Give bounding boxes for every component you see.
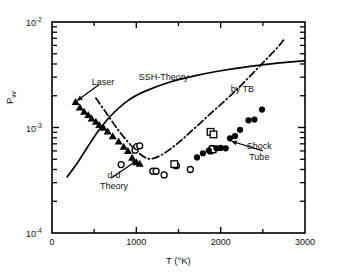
xtick-label-0: 0 xyxy=(50,237,55,247)
xtick-label-3000: 3000 xyxy=(295,237,315,247)
chart-plot xyxy=(0,0,337,274)
marker-open-squares xyxy=(171,161,178,168)
marker-shock-tube xyxy=(223,145,229,151)
ytick-label-1e-4: 10-4 xyxy=(26,227,42,239)
marker-shock-tube xyxy=(237,127,243,133)
ytick-label-1e-3: 10-3 xyxy=(26,122,42,134)
marker-shock-tube xyxy=(194,154,200,160)
marker-open-circles xyxy=(137,143,143,149)
ytick-label-1e-2: 10-2 xyxy=(26,16,42,28)
marker-laser xyxy=(128,154,136,161)
marker-shock-tube xyxy=(251,116,257,122)
annotation-arrows xyxy=(77,85,263,179)
annotation-dd-theory: d-dTheory xyxy=(100,170,128,192)
marker-open-circles xyxy=(118,162,124,168)
data-points xyxy=(72,98,265,178)
annotation-shock-tube: ShockTube xyxy=(247,141,272,163)
annotation-by-tb: by TB xyxy=(231,84,254,94)
x-axis-title: T (°K) xyxy=(166,255,191,266)
annotation-ssh-theory: SSH-Theory xyxy=(139,72,189,82)
marker-shock-tube xyxy=(245,117,251,123)
figure-canvas: 10-2 10-3 10-4 Pvv 0 1000 2000 3000 T (°… xyxy=(0,0,337,274)
axis-ticks xyxy=(52,22,305,233)
marker-open-circles xyxy=(187,166,193,172)
marker-shock-tube xyxy=(259,106,265,112)
annotation-laser: Laser xyxy=(92,77,115,87)
marker-open-squares xyxy=(210,131,217,138)
marker-open-circles xyxy=(153,168,159,174)
arrowhead-laser xyxy=(77,96,83,101)
marker-open-circles xyxy=(161,172,167,178)
y-axis-title: Pvv xyxy=(4,91,17,104)
marker-shock-tube xyxy=(232,133,238,139)
marker-shock-tube xyxy=(200,150,206,156)
xtick-label-2000: 2000 xyxy=(211,237,231,247)
xtick-label-1000: 1000 xyxy=(126,237,146,247)
plot-frame xyxy=(52,22,305,233)
marker-shock-tube xyxy=(206,147,212,153)
